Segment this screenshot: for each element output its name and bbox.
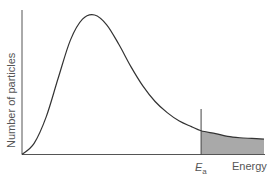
ea-label-subscript: a	[202, 167, 207, 176]
ea-label: Ea	[195, 161, 207, 176]
distribution-chart: Number of particles Ea Energy	[0, 0, 272, 179]
area-above-activation-energy	[201, 131, 264, 155]
y-axis-label: Number of particles	[5, 52, 17, 148]
x-axis-label: Energy	[232, 160, 267, 172]
distribution-curve	[22, 15, 264, 155]
shaded-region	[201, 131, 264, 155]
